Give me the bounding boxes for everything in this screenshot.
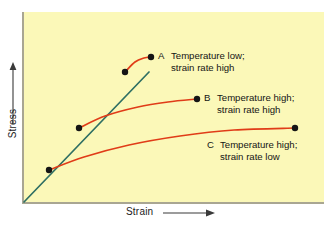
annotation-b-line1: Temperature high; [217,92,294,103]
x-axis-line [22,202,324,204]
annotation-c-key: C [207,139,220,151]
right-arrow-icon [163,206,215,220]
annotation-b-key: B [204,92,217,104]
stress-strain-figure: Stress Strain ATemperature low;strain ra… [0,0,324,226]
annotation-c-line1: Temperature high; [220,139,297,150]
annotation-a-line1: Temperature low; [171,50,245,61]
annotation-a-key: A [158,50,171,62]
annotation-a: ATemperature low;strain rate high [158,50,245,73]
y-axis-line [22,12,24,204]
annotation-c-line2: strain rate low [220,151,297,163]
annotation-a-line2: strain rate high [171,62,245,74]
y-axis-title: Stress [7,94,18,154]
annotation-c: CTemperature high;strain rate low [207,139,297,162]
annotation-b-line2: strain rate high [217,104,294,116]
annotation-b: BTemperature high;strain rate high [204,92,294,115]
x-axis-title: Strain [126,206,153,217]
